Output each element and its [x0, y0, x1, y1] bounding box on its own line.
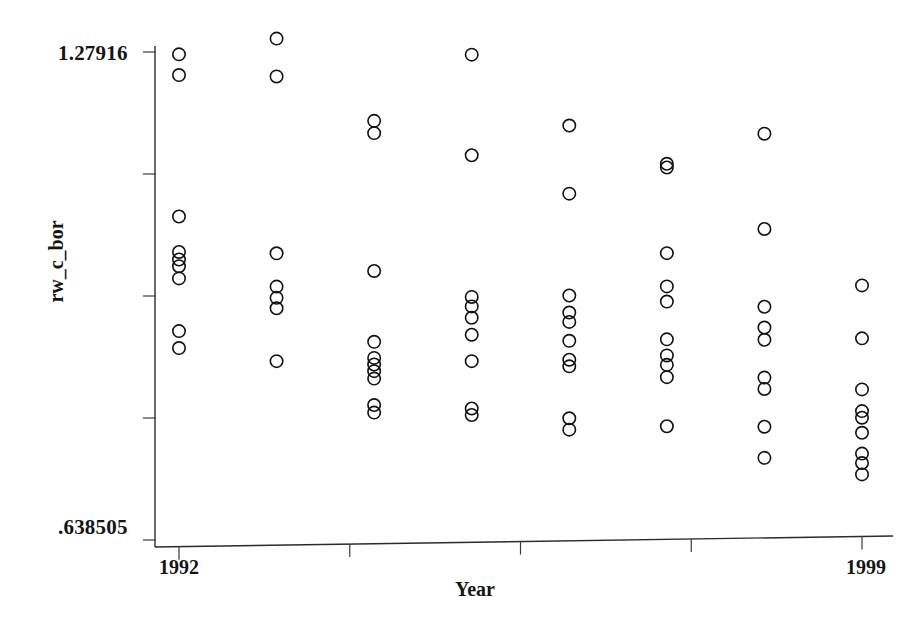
data-point — [466, 329, 478, 341]
axis-lines — [155, 46, 893, 547]
data-point — [758, 421, 770, 433]
data-point — [661, 280, 673, 292]
data-point — [270, 70, 282, 82]
data-point — [173, 210, 185, 222]
data-point — [368, 399, 380, 411]
data-point — [661, 420, 673, 432]
data-point — [758, 223, 770, 235]
x-axis-line — [155, 536, 893, 547]
data-point — [563, 423, 575, 435]
data-point — [856, 457, 868, 469]
scatter-plot-figure: 1.27916 .638505 rw_c_bor 1992 1999 Year — [0, 0, 909, 641]
data-point — [270, 247, 282, 259]
data-point — [368, 336, 380, 348]
data-point — [856, 427, 868, 439]
data-point — [173, 246, 185, 258]
data-point — [758, 321, 770, 333]
data-point — [661, 333, 673, 345]
data-point — [856, 383, 868, 395]
data-point — [563, 119, 575, 131]
data-point — [368, 115, 380, 127]
data-point — [758, 127, 770, 139]
data-point — [661, 359, 673, 371]
data-point — [758, 452, 770, 464]
data-point — [758, 301, 770, 313]
data-point — [466, 312, 478, 324]
data-point — [661, 247, 673, 259]
data-point — [661, 371, 673, 383]
data-point — [466, 149, 478, 161]
data-point — [466, 48, 478, 60]
x-axis-ticks — [179, 536, 862, 559]
data-point — [173, 342, 185, 354]
data-point — [368, 372, 380, 384]
data-point — [466, 300, 478, 312]
data-point — [563, 187, 575, 199]
data-point — [173, 69, 185, 81]
data-point — [856, 468, 868, 480]
data-point — [856, 279, 868, 291]
data-point — [368, 265, 380, 277]
data-point — [368, 127, 380, 139]
data-point — [173, 325, 185, 337]
data-point — [758, 383, 770, 395]
chart-canvas — [0, 0, 909, 641]
data-point — [758, 334, 770, 346]
data-point — [563, 335, 575, 347]
data-point — [173, 272, 185, 284]
y-axis-ticks — [143, 52, 156, 540]
data-point — [270, 32, 282, 44]
data-point — [173, 48, 185, 60]
data-point — [466, 355, 478, 367]
data-point-group — [173, 32, 868, 480]
data-point — [563, 316, 575, 328]
data-point — [563, 412, 575, 424]
data-point — [368, 406, 380, 418]
data-point — [563, 289, 575, 301]
data-point — [856, 332, 868, 344]
data-point — [758, 371, 770, 383]
data-point — [661, 295, 673, 307]
data-point — [270, 355, 282, 367]
